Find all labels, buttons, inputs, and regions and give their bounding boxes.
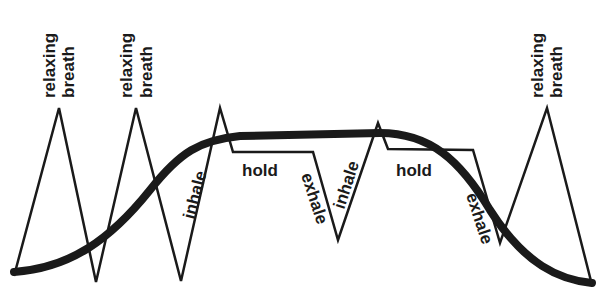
label-breath-3: breath [547,46,566,98]
label-relaxing-2: relaxing [117,33,136,98]
label-inhale-1: inhale [180,169,211,221]
label-breath-1: breath [59,46,78,98]
breathing-diagram: relaxing breath relaxing breath relaxing… [0,0,605,302]
label-hold-2: hold [396,161,432,180]
label-relaxing-3: relaxing [528,33,547,98]
label-relaxing-1: relaxing [40,33,59,98]
label-breath-2: breath [137,46,156,98]
label-hold-1: hold [242,161,278,180]
